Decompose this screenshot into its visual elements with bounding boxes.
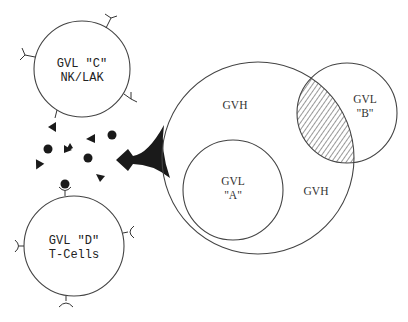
cell-c-title: GVL "C" — [57, 57, 107, 71]
gvl-b-subtitle: "B" — [356, 107, 373, 119]
dot-icon — [84, 154, 93, 163]
dot-icon — [44, 145, 53, 154]
triangle-icon — [96, 174, 105, 182]
cell-c-subtitle: NK/LAK — [60, 71, 104, 85]
cell-c-nk-lak: GVL "C" NK/LAK — [20, 14, 137, 118]
gvl-gvh-diagram: GVL "C" NK/LAK GVL "D" T-Cells GVH GVH — [0, 0, 408, 322]
cell-d-t-cells: GVL "D" T-Cells — [15, 187, 134, 307]
cell-d-subtitle: T-Cells — [49, 248, 99, 262]
gvh-label-right: GVH — [304, 185, 329, 197]
triangle-icon — [48, 122, 56, 132]
cell-d-title: GVL "D" — [49, 234, 99, 248]
dot-icon — [61, 180, 70, 189]
triangle-icon — [34, 159, 45, 170]
soluble-factors — [34, 122, 116, 189]
gvl-b-title: GVL — [353, 93, 377, 105]
gvh-label-top: GVH — [223, 99, 248, 111]
gvl-a-subtitle: "A" — [224, 189, 242, 201]
gvl-a-circle: GVL "A" — [183, 140, 283, 240]
gvl-a-title: GVL — [221, 175, 245, 187]
triangle-icon — [86, 134, 95, 143]
dot-icon — [108, 131, 117, 140]
